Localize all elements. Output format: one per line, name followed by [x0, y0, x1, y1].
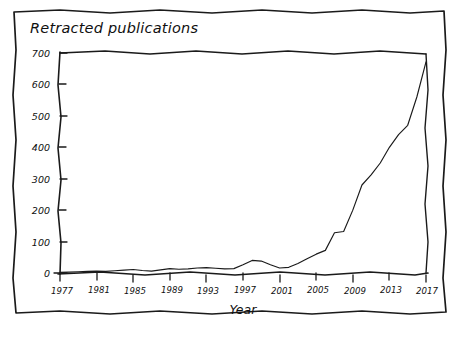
x-tick-label-1985: 1985 [124, 286, 146, 296]
y-tick-label-700: 700 [32, 48, 50, 59]
x-tick-label-2013: 2013 [380, 285, 402, 295]
chart-title: Retracted publications [30, 20, 198, 36]
y-axis-line [58, 52, 61, 274]
data-series-retracted-publications [60, 62, 426, 273]
x-tick-label-2017: 2017 [416, 286, 438, 296]
y-tick-label-600: 600 [32, 79, 50, 90]
x-tick-label-1993: 1993 [197, 286, 219, 296]
x-tick-label-1997: 1997 [234, 285, 256, 295]
y-tick-label-300: 300 [32, 174, 50, 185]
figure-caption [0, 334, 457, 341]
x-tick-label-1981: 1981 [88, 285, 110, 295]
x-tick-label-2009: 2009 [344, 286, 366, 296]
y-tick-label-0: 0 [44, 268, 50, 279]
y-tick-label-200: 200 [32, 205, 50, 216]
figure-container: Retracted publications 700 600 500 400 3… [0, 0, 457, 341]
x-tick-label-2005: 2005 [307, 285, 329, 295]
y-tick-label-100: 100 [32, 237, 50, 248]
plot-area-top-border [60, 51, 426, 54]
x-tick-label-1989: 1989 [161, 285, 183, 295]
x-axis-ticks [60, 273, 426, 282]
y-tick-label-500: 500 [32, 111, 50, 122]
retracted-publications-chart: Retracted publications 700 600 500 400 3… [0, 0, 457, 341]
plot-area-right-border [425, 54, 428, 273]
x-tick-label-1977: 1977 [51, 286, 73, 296]
x-axis-title: Year [230, 302, 258, 317]
y-tick-label-400: 400 [32, 142, 50, 153]
x-tick-label-2001: 2001 [271, 286, 293, 296]
